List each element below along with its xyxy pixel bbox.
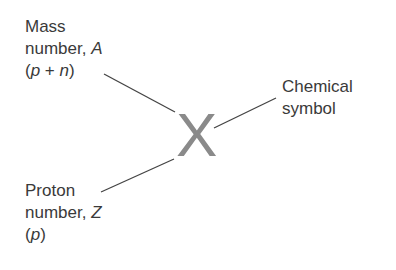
mass-number-line1: Mass [25,16,103,38]
proton-number-line2: number, Z [25,202,102,224]
proton-number-text: number, [25,203,91,222]
proton-var: p [31,61,40,80]
proton-number-line3: (p) [25,224,102,246]
mass-number-variable: A [91,39,102,58]
mass-number-label: Mass number, A (p + n) [25,16,103,82]
chemical-symbol-label: Chemical symbol [282,76,353,120]
proton-number-leader-line [101,159,174,192]
proton-var: p [31,225,40,244]
mass-number-line2: number, A [25,38,103,60]
neutron-var: n [60,61,69,80]
mass-number-text: number, [25,39,91,58]
chemical-symbol-line1: Chemical [282,76,353,98]
mass-number-leader-line [104,74,175,112]
mass-number-line3: (p + n) [25,60,103,82]
proton-number-variable: Z [91,203,101,222]
proton-number-line1: Proton [25,180,102,202]
chemical-symbol-leader-line [214,98,276,128]
chemical-symbol-x: X [176,104,217,166]
paren-close: ) [40,225,46,244]
proton-number-label: Proton number, Z (p) [25,180,102,246]
paren-close: ) [69,61,75,80]
chemical-symbol-line2: symbol [282,98,353,120]
plus-sign: + [40,61,59,80]
